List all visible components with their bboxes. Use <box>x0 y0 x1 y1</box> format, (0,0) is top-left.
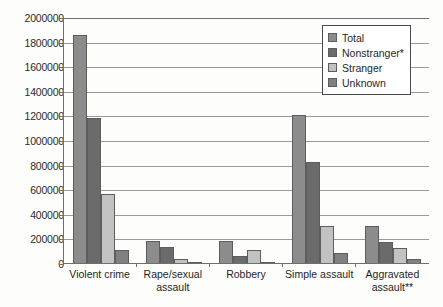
legend-item: Total <box>328 30 404 45</box>
bar <box>160 247 174 263</box>
legend-swatch <box>328 78 337 87</box>
bar-group <box>137 18 210 263</box>
legend-item: Nonstranger* <box>328 45 404 60</box>
bar <box>334 253 348 263</box>
bar <box>320 226 334 263</box>
legend-label: Total <box>342 32 364 44</box>
bar <box>292 115 306 263</box>
legend-swatch <box>328 33 337 42</box>
bar <box>73 35 87 263</box>
x-axis-label: Simple assault <box>283 268 356 293</box>
bar <box>233 256 247 263</box>
legend-item: Stranger <box>328 60 404 75</box>
bar <box>174 259 188 263</box>
bar <box>188 262 202 263</box>
x-axis-tick-mark <box>282 263 283 267</box>
x-axis-label: Violent crime <box>63 268 136 293</box>
bar <box>306 162 320 263</box>
bar <box>407 259 421 263</box>
x-axis-label: Aggravated assault** <box>356 268 429 293</box>
bar <box>219 241 233 263</box>
bar <box>101 194 115 263</box>
bar <box>261 262 275 263</box>
bar <box>87 118 101 263</box>
bar-group <box>64 18 137 263</box>
legend-swatch <box>328 48 337 57</box>
legend-label: Stranger <box>342 62 382 74</box>
chart-legend: TotalNonstranger*StrangerUnknown <box>322 25 411 95</box>
x-axis-tick-mark <box>355 263 356 267</box>
bar <box>247 250 261 263</box>
bar <box>393 248 407 263</box>
legend-label: Nonstranger* <box>342 47 404 59</box>
x-axis-labels: Violent crimeRape/sexual assaultRobberyS… <box>63 268 429 293</box>
bar <box>365 226 379 263</box>
bar <box>115 250 129 263</box>
x-axis-label: Robbery <box>209 268 282 293</box>
bar <box>146 241 160 263</box>
legend-label: Unknown <box>342 77 386 89</box>
x-axis-tick-mark <box>136 263 137 267</box>
x-axis-label: Rape/sexual assault <box>136 268 209 293</box>
y-axis-tick-mark <box>59 264 63 265</box>
legend-item: Unknown <box>328 75 404 90</box>
bar <box>379 242 393 263</box>
bar-group <box>210 18 283 263</box>
bar-chart: 2000000180000016000001400000120000010000… <box>0 0 443 307</box>
legend-swatch <box>328 63 337 72</box>
x-axis-tick-mark <box>209 263 210 267</box>
